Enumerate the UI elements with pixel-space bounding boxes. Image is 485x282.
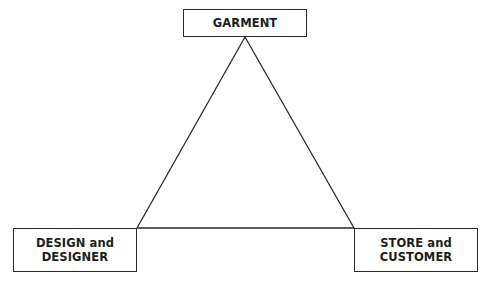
node-store-label: STORE and CUSTOMER (380, 236, 453, 264)
node-store-and-customer: STORE and CUSTOMER (354, 228, 478, 272)
node-garment: GARMENT (183, 9, 307, 37)
node-design-label: DESIGN and DESIGNER (36, 236, 114, 264)
edge-garment-store (245, 37, 354, 228)
edge-garment-design (137, 37, 245, 228)
node-garment-label: GARMENT (213, 16, 278, 30)
triangle-diagram: GARMENT DESIGN and DESIGNER STORE and CU… (0, 0, 485, 282)
node-design-and-designer: DESIGN and DESIGNER (13, 228, 137, 272)
